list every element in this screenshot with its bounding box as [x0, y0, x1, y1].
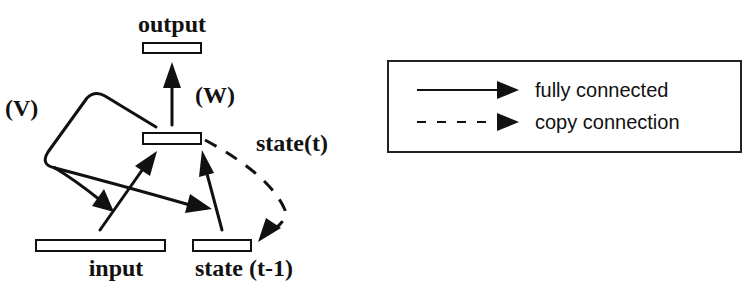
- output-layer-box: [143, 43, 201, 53]
- srn-diagram: output (W) state(t) (V) input state (t-1…: [0, 0, 748, 289]
- state-t-minus-1-label: state (t-1): [195, 255, 293, 281]
- v-weight-label: (V): [5, 95, 38, 121]
- state-t-label: state(t): [256, 130, 328, 156]
- prev-state-to-state-arrow: [199, 150, 222, 230]
- w-weight-label: (W): [195, 82, 235, 108]
- output-label: output: [138, 11, 206, 37]
- state-t-layer-box: [143, 133, 201, 144]
- w-arrow: [163, 62, 181, 125]
- input-to-state-arrow: [100, 151, 157, 230]
- input-layer-box: [36, 240, 165, 251]
- legend-label-fully-connected: fully connected: [535, 79, 668, 101]
- legend: fully connected copy connection: [388, 61, 741, 152]
- v-curve-arrows: [45, 93, 212, 213]
- input-label: input: [89, 255, 144, 281]
- state-t-minus-1-layer-box: [193, 240, 251, 251]
- legend-box: [388, 61, 741, 152]
- legend-label-copy-connection: copy connection: [535, 111, 680, 133]
